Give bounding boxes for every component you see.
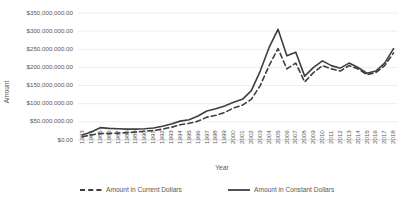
- y-axis-tick-label: $150,000,000.00: [27, 81, 74, 88]
- x-axis-tick-label: 1997: [203, 130, 210, 144]
- x-axis-tick-label: 2013: [345, 130, 352, 144]
- x-axis-tick-label: 2001: [238, 130, 245, 144]
- x-axis-tick-label: 1993: [167, 130, 174, 144]
- y-axis-tick-labels: $0.00$50,000,000.00$100,000,000.00$150,0…: [27, 9, 74, 143]
- x-axis-tick-label: 1987: [114, 130, 121, 144]
- x-axis-tick-label: 2007: [291, 130, 298, 144]
- gridlines: [78, 13, 398, 140]
- y-axis-tick-label: $200,000,000.00: [27, 63, 74, 70]
- x-axis-tick-label: 1994: [176, 130, 183, 144]
- x-axis-tick-label: 2014: [354, 130, 361, 144]
- x-axis-tick-label: 1992: [158, 130, 165, 144]
- x-axis-tick-label: 2004: [265, 130, 272, 144]
- x-axis-tick-label: 2012: [336, 130, 343, 144]
- x-axis-tick-label: 2002: [247, 130, 254, 144]
- x-axis-tick-label: 2005: [274, 130, 281, 144]
- x-axis-tick-label: 2017: [380, 130, 387, 144]
- x-axis-tick-label: 1999: [220, 130, 227, 144]
- x-axis-tick-labels: 1983198419851986198719881989199019911992…: [78, 130, 396, 144]
- x-axis-tick-label: 2006: [283, 130, 290, 144]
- chart-container: $0.00$50,000,000.00$100,000,000.00$150,0…: [0, 0, 404, 204]
- x-axis-tick-label: 2018: [389, 130, 396, 144]
- x-axis-tick-label: 1995: [185, 130, 192, 144]
- x-axis-tick-label: 1998: [211, 130, 218, 144]
- y-axis-tick-label: $50,000,000.00: [30, 117, 74, 124]
- x-axis-tick-label: 1991: [149, 130, 156, 144]
- y-axis-tick-label: $250,000,000.00: [27, 45, 74, 52]
- series-lines: [82, 29, 393, 136]
- legend-label[interactable]: Amount in Current Dollars: [106, 186, 183, 193]
- x-axis-tick-label: 2009: [309, 130, 316, 144]
- x-axis-tick-label: 2010: [318, 130, 325, 144]
- x-axis-tick-label: 1996: [194, 130, 201, 144]
- y-axis-tick-label: $350,000,000.00: [27, 9, 74, 16]
- x-axis-tick-label: 2011: [327, 130, 334, 144]
- x-axis-tick-label: 2016: [371, 130, 378, 144]
- y-axis-title: Amount: [3, 80, 10, 103]
- x-axis-tick-label: 2015: [363, 130, 370, 144]
- x-axis-tick-label: 2003: [256, 130, 263, 144]
- y-axis-tick-label: $0.00: [58, 136, 74, 143]
- x-axis-tick-label: 2000: [229, 130, 236, 144]
- x-axis-title: Year: [215, 164, 229, 171]
- x-axis-tick-label: 2008: [300, 130, 307, 144]
- chart-legend: Amount in Current DollarsAmount in Const…: [80, 186, 335, 193]
- y-axis-tick-label: $300,000,000.00: [27, 27, 74, 34]
- series-line-dashed: [82, 49, 393, 137]
- x-axis-tick-label: 1988: [123, 130, 130, 144]
- y-axis-tick-label: $100,000,000.00: [27, 99, 74, 106]
- series-line-solid: [82, 29, 393, 135]
- line-chart: $0.00$50,000,000.00$100,000,000.00$150,0…: [0, 0, 404, 204]
- x-axis-tick-label: 1985: [96, 130, 103, 144]
- x-axis-tick-label: 1986: [105, 130, 112, 144]
- legend-label[interactable]: Amount in Constant Dollars: [254, 186, 335, 193]
